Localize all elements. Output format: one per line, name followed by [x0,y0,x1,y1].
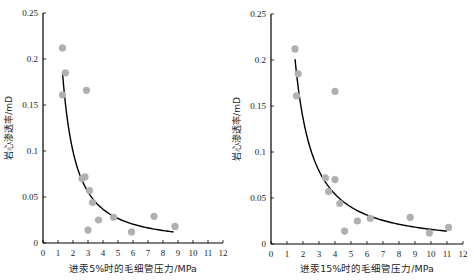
y-tick-label: 0.1 [255,147,266,157]
y-tick-label: 0.1 [27,146,38,156]
x-axis-label: 进汞5%时的毛细管压力/MPa [69,263,197,274]
data-point [407,214,414,221]
x-tick-label: 0 [269,249,274,259]
data-point [110,214,117,221]
x-tick-label: 11 [204,248,213,258]
x-tick-label: 3 [317,249,322,259]
y-tick-label: 0 [262,239,267,249]
fit-curve [63,73,174,232]
y-tick-label: 0.05 [22,192,38,202]
data-point [341,228,348,235]
y-tick-label: 0 [34,238,39,248]
x-tick-label: 7 [146,248,151,258]
x-tick-label: 8 [397,249,402,259]
data-point [322,174,329,181]
data-point [331,176,338,183]
y-tick-label: 0.25 [250,9,266,19]
x-tick-label: 12 [459,249,468,259]
data-point [83,87,90,94]
data-point [171,223,178,230]
data-point [128,228,135,235]
x-tick-label: 9 [413,249,418,259]
data-point [95,216,102,223]
chart-canvas: 012345678910111200.050.10.150.20.25进汞5%时… [0,0,474,280]
x-tick-label: 3 [86,248,91,258]
x-tick-label: 1 [285,249,290,259]
fit-curve [295,59,447,231]
data-point [59,44,66,51]
x-tick-label: 9 [176,248,181,258]
y-axis-label: 岩心渗透率/mD [231,97,242,161]
y-tick-label: 0.05 [250,193,266,203]
data-point [354,217,361,224]
data-point [336,200,343,207]
x-tick-label: 4 [333,249,338,259]
x-tick-label: 10 [189,248,199,258]
y-tick-label: 0.25 [22,8,38,18]
data-point [62,69,69,76]
y-axis-label: 岩心渗透率/mD [3,96,14,160]
x-tick-label: 7 [381,249,386,259]
data-point [89,199,96,206]
x-tick-label: 4 [101,248,106,258]
x-tick-label: 1 [56,248,61,258]
y-tick-label: 0.15 [250,101,266,111]
x-tick-label: 0 [41,248,46,258]
data-point [445,224,452,231]
data-point [291,45,298,52]
data-point [59,91,66,98]
x-tick-label: 5 [116,248,121,258]
data-point [81,173,88,180]
x-tick-label: 2 [301,249,306,259]
data-point [325,188,332,195]
data-point [295,70,302,77]
data-point [150,213,157,220]
x-tick-label: 12 [219,248,228,258]
y-tick-label: 0.2 [27,54,38,64]
x-axis-label: 进汞15%时的毛细管压力/MPa [300,263,434,274]
data-point [367,215,374,222]
x-tick-label: 11 [443,249,452,259]
x-tick-label: 5 [349,249,354,259]
data-point [426,229,433,236]
data-point [84,227,91,234]
chart-right: 012345678910111200.050.10.150.20.25进汞15%… [231,9,468,274]
x-tick-label: 6 [365,249,370,259]
data-point [331,88,338,95]
chart-left: 012345678910111200.050.10.150.20.25进汞5%时… [3,8,228,274]
x-tick-label: 6 [131,248,136,258]
x-tick-label: 8 [161,248,166,258]
data-point [293,92,300,99]
x-tick-label: 2 [71,248,76,258]
y-tick-label: 0.15 [22,100,38,110]
data-point [86,187,93,194]
x-tick-label: 10 [427,249,437,259]
y-tick-label: 0.2 [255,55,266,65]
